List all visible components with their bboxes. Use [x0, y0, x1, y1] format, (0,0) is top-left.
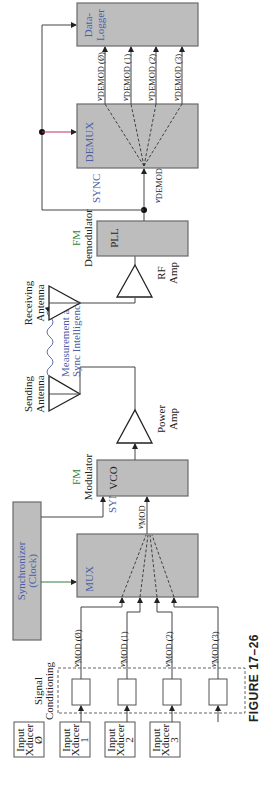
vmod-3-label: vMOD (3)	[208, 631, 220, 667]
conditioner-box-2	[163, 679, 181, 705]
demux-label: DEMUX	[83, 122, 95, 162]
fm-modulator-label-1: FM	[70, 469, 82, 485]
vmod-2-label: vMOD (2)	[162, 631, 174, 667]
transmission-label-2: Sync Intelligence	[70, 300, 82, 377]
vdemod-2-label: vDEMOD (2)	[145, 54, 157, 101]
transducer-2: Input Xducer 2	[105, 722, 135, 757]
figure-caption: FIGURE 17–26	[247, 634, 261, 722]
sync-rx-label: SYNC	[90, 174, 102, 203]
power-amp-label-2: Amp	[167, 408, 179, 431]
vmod-0-label: vMOD (Ø)	[71, 629, 83, 667]
rf-amp-label-2: Amp	[167, 262, 179, 285]
mod-path-0	[81, 598, 122, 679]
transducer-3: Input Xducer 3	[150, 722, 180, 757]
svg-text:1: 1	[78, 737, 90, 743]
svg-text:3: 3	[168, 737, 180, 743]
fm-modulator-label-2: Modulator	[82, 453, 94, 500]
sending-antenna-label-1: Sending	[22, 375, 34, 412]
synchronizer-label-2: (Clock)	[26, 554, 39, 588]
power-amp-triangle	[117, 410, 152, 443]
data-logger-label-2: Logger	[94, 9, 106, 41]
vmod-label: vMOD	[135, 505, 147, 529]
vmod-1-label: vMOD (1)	[117, 631, 129, 667]
rf-amp-triangle	[117, 265, 152, 297]
vdemod-3-label: vDEMOD (3)	[171, 54, 183, 101]
svg-text:Ø: Ø	[32, 736, 44, 744]
conditioner-box-1	[118, 679, 136, 705]
svg-text:2: 2	[123, 737, 135, 743]
rf-amp-label-1: RF	[155, 266, 167, 279]
fm-demodulator-label-2: Demodulator	[82, 209, 94, 267]
transducer-0: Input Xducer Ø	[14, 722, 44, 757]
vdemod-0-label: vDEMOD (Ø)	[94, 52, 106, 101]
conditioner-box-0	[72, 679, 90, 705]
fm-demodulator-label-1: FM	[70, 230, 82, 246]
vco-label: VCO	[107, 466, 119, 489]
pll-label: PLL	[108, 228, 120, 248]
telemetry-diagram: Input Xducer Ø Input Xducer 1 Input Xduc…	[0, 0, 264, 787]
signal-conditioning-label-2: Conditioning	[43, 661, 55, 720]
vdemod-1-label: vDEMOD (1)	[120, 54, 132, 101]
power-amp-label-1: Power	[155, 405, 167, 433]
data-logger-label-1: Data-	[82, 12, 94, 37]
mux-label: MUX	[83, 566, 95, 592]
vdemod-label: vDEMOD	[152, 168, 164, 203]
sending-antenna-label-2: Antenna	[34, 375, 46, 412]
receiving-antenna-label-2: Antenna	[34, 284, 46, 321]
conditioner-box-3	[209, 679, 227, 705]
mux-block	[77, 534, 198, 597]
transducer-1: Input Xducer 1	[60, 722, 90, 757]
receiving-antenna-label-1: Receiving	[22, 280, 34, 325]
